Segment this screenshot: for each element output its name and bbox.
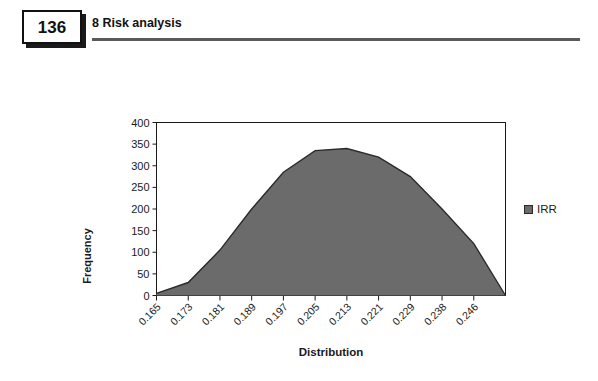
svg-text:0.246: 0.246 [453,300,480,327]
svg-text:150: 150 [131,225,149,237]
page-number: 136 [38,19,66,36]
page-number-box: 136 [22,10,82,44]
svg-text:300: 300 [131,160,149,172]
svg-text:0.173: 0.173 [168,300,195,327]
svg-text:0.221: 0.221 [358,300,385,327]
chapter-heading: 8 Risk analysis [92,16,182,30]
svg-text:0.189: 0.189 [231,300,258,327]
svg-text:400: 400 [131,117,149,129]
svg-text:250: 250 [131,181,149,193]
svg-text:50: 50 [137,268,149,280]
header-rule [92,38,580,41]
chart-plot-area: 050100150200250300350400 0.1650.1730.181… [0,100,598,381]
chart-figure: Frequency 050100150200250300350400 0.165… [0,100,598,381]
svg-text:0.238: 0.238 [421,300,448,327]
y-axis-tick-labels: 050100150200250300350400 [131,117,149,302]
x-axis-ticks [157,296,474,301]
x-axis-tick-labels: 0.1650.1730.1810.1890.1970.2050.2130.221… [136,300,480,327]
svg-text:0.205: 0.205 [294,300,321,327]
svg-text:0.229: 0.229 [390,300,417,327]
svg-text:0.181: 0.181 [199,300,226,327]
legend-swatch-irr [524,205,533,214]
svg-text:0: 0 [143,290,149,302]
svg-text:0.197: 0.197 [263,300,290,327]
svg-text:0.165: 0.165 [136,300,163,327]
svg-text:200: 200 [131,203,149,215]
svg-text:0.213: 0.213 [326,300,353,327]
legend-label-irr: IRR [537,203,557,215]
page-header: 136 8 Risk analysis [0,0,598,58]
y-axis-ticks [153,123,157,296]
svg-text:100: 100 [131,246,149,258]
x-axis-title: Distribution [246,346,416,358]
svg-text:350: 350 [131,138,149,150]
chart-legend: IRR [524,203,557,215]
